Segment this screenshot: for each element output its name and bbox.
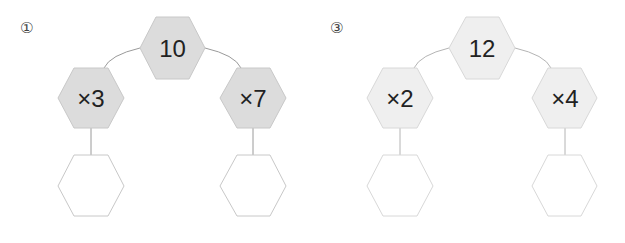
left-answer-hexagon[interactable] bbox=[58, 155, 124, 216]
left-operation: ×3 bbox=[77, 85, 104, 112]
left-answer-hexagon[interactable] bbox=[367, 155, 433, 216]
right-operation: ×7 bbox=[239, 85, 266, 112]
problem-1: ① 10 ×3 ×7 bbox=[20, 17, 286, 216]
problem-3: ③ 12 ×2 ×4 bbox=[330, 17, 597, 216]
connector-arc-right bbox=[205, 48, 241, 68]
right-answer-hexagon[interactable] bbox=[532, 155, 597, 216]
connector-arc-left bbox=[414, 48, 449, 68]
connector-arc-left bbox=[104, 48, 140, 68]
left-operation: ×2 bbox=[386, 85, 413, 112]
connector-arc-right bbox=[515, 48, 551, 68]
top-number: 10 bbox=[159, 35, 186, 62]
right-operation: ×4 bbox=[551, 85, 578, 112]
top-number: 12 bbox=[469, 35, 496, 62]
problem-label: ① bbox=[20, 19, 33, 37]
right-answer-hexagon[interactable] bbox=[220, 155, 286, 216]
diagram-canvas: ① 10 ×3 ×7 ③ 12 ×2 ×4 bbox=[0, 0, 625, 243]
problem-label: ③ bbox=[330, 19, 343, 37]
